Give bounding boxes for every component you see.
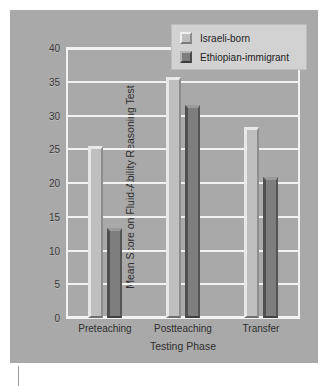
bar (244, 127, 259, 318)
x-axis-tick-label: Transfer (243, 323, 280, 334)
legend-item: Ethiopian-immigrant (180, 49, 289, 65)
legend: Israeli-bornEthiopian-immigrant (171, 24, 307, 70)
y-axis-tick-label: 0 (54, 313, 60, 324)
bar-body (107, 228, 122, 318)
left-margin-rule (18, 366, 19, 386)
bar-body (88, 146, 103, 318)
y-axis-tick-label: 5 (54, 279, 60, 290)
y-axis-tick-label: 10 (49, 245, 60, 256)
bar (107, 228, 122, 318)
legend-label: Israeli-born (200, 33, 250, 44)
plot-area: 0510152025303540 PreteachingPostteaching… (66, 48, 300, 318)
y-axis-tick-label: 30 (49, 110, 60, 121)
bar (263, 177, 278, 318)
y-axis-tick-label: 35 (49, 76, 60, 87)
y-axis-tick-label: 20 (49, 178, 60, 189)
legend-label: Ethiopian-immigrant (200, 52, 289, 63)
legend-swatch-icon (180, 51, 192, 63)
bar-body (166, 77, 181, 318)
bar (166, 77, 181, 318)
chart-panel: Mean Score on Fluid-Ability Reasoning Te… (10, 10, 318, 363)
y-axis-tick-label: 40 (49, 43, 60, 54)
figure: Mean Score on Fluid-Ability Reasoning Te… (0, 0, 328, 386)
bars-container (66, 48, 300, 318)
bar (185, 105, 200, 318)
bar (88, 146, 103, 318)
x-axis-tick-label: Postteaching (154, 323, 212, 334)
bar-body (244, 127, 259, 318)
legend-swatch-icon (180, 32, 192, 44)
legend-item: Israeli-born (180, 30, 250, 46)
bar-group (244, 48, 278, 318)
bar-group (88, 48, 122, 318)
y-axis-tick-label: 25 (49, 144, 60, 155)
y-axis-tick-label: 15 (49, 211, 60, 222)
x-axis-tick-label: Preteaching (78, 323, 131, 334)
bar-group (166, 48, 200, 318)
bar-body (263, 177, 278, 318)
x-axis-title: Testing Phase (66, 340, 300, 352)
bar-body (185, 105, 200, 318)
